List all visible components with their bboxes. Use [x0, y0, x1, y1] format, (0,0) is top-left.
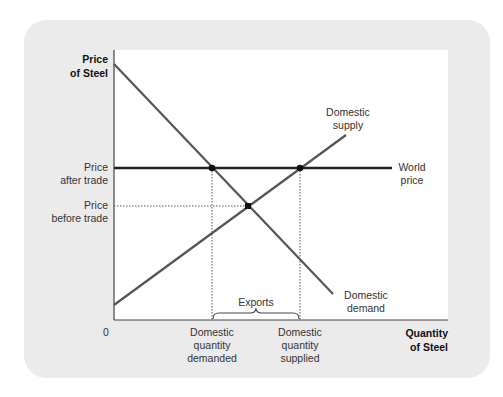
x-axis-label: Quantity of Steel: [390, 326, 448, 354]
equilibrium-point: [245, 203, 251, 209]
exports-label: Exports: [226, 296, 286, 309]
quantity-demanded-label: Domestic quantity demanded: [177, 326, 247, 365]
qs-point: [297, 165, 304, 172]
qd-point: [209, 165, 216, 172]
price-after-trade-label: Price after trade: [40, 161, 108, 187]
domestic-supply-label: Domestic supply: [318, 106, 378, 132]
origin-label: 0: [100, 326, 112, 339]
quantity-supplied-label: Domestic quantity supplied: [265, 326, 335, 365]
demand-curve: [114, 64, 333, 294]
world-price-label: World price: [394, 161, 430, 187]
price-before-trade-label: Price before trade: [40, 199, 108, 225]
y-axis-label: Price of Steel: [50, 52, 108, 80]
supply-curve: [114, 135, 346, 305]
domestic-demand-label: Domestic demand: [336, 289, 396, 315]
exports-brace: [213, 308, 299, 319]
